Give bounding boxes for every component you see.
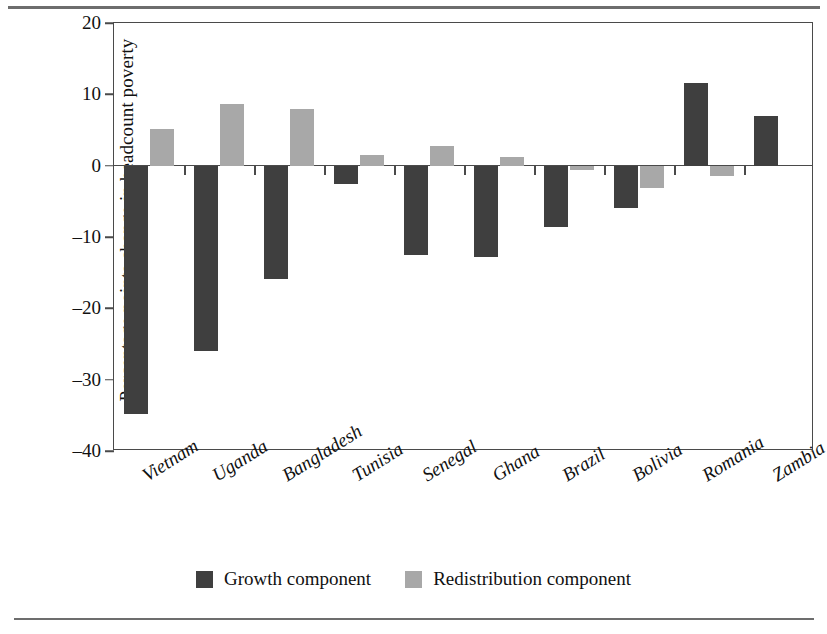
x-label-romania: Romania bbox=[698, 468, 710, 487]
x-label-vietnam: Vietnam bbox=[138, 468, 150, 487]
bar-ghana-redist bbox=[500, 157, 524, 166]
bar-vietnam-growth bbox=[124, 166, 148, 414]
bar-zambia-growth bbox=[754, 116, 778, 165]
plot-frame: Percentage points change in headcount po… bbox=[113, 22, 813, 450]
x-tick-mark bbox=[674, 166, 676, 175]
bar-senegal-growth bbox=[404, 166, 428, 255]
x-label-tunisia: Tunisia bbox=[348, 468, 360, 487]
legend-item-redistribution: Redistribution component bbox=[405, 568, 631, 590]
x-tick-mark bbox=[184, 166, 186, 175]
bar-uganda-growth bbox=[194, 166, 218, 351]
x-label-senegal: Senegal bbox=[418, 468, 430, 487]
y-tick-mark bbox=[105, 22, 114, 24]
y-tick-mark bbox=[105, 165, 114, 167]
bottom-rule bbox=[14, 618, 814, 620]
bar-senegal-redist bbox=[430, 146, 454, 165]
x-label-bangladesh: Bangladesh bbox=[278, 468, 290, 487]
chart-legend: Growth component Redistribution componen… bbox=[0, 568, 827, 590]
x-label-brazil: Brazil bbox=[558, 468, 570, 487]
x-label-ghana: Ghana bbox=[488, 468, 500, 487]
bar-tunisia-redist bbox=[360, 155, 384, 166]
bar-vietnam-redist bbox=[150, 129, 174, 165]
x-label-zambia: Zambia bbox=[768, 468, 780, 487]
x-tick-mark bbox=[324, 166, 326, 175]
x-tick-mark bbox=[394, 166, 396, 175]
bar-uganda-redist bbox=[220, 104, 244, 166]
bar-tunisia-growth bbox=[334, 166, 358, 185]
x-label-uganda: Uganda bbox=[208, 468, 220, 487]
bar-ghana-growth bbox=[474, 166, 498, 257]
legend-label-redistribution: Redistribution component bbox=[433, 568, 631, 590]
x-tick-mark bbox=[604, 166, 606, 175]
y-tick-mark bbox=[105, 308, 114, 310]
bar-bangladesh-redist bbox=[290, 109, 314, 166]
bar-brazil-redist bbox=[570, 166, 594, 170]
x-tick-mark bbox=[254, 166, 256, 175]
x-tick-mark bbox=[744, 166, 746, 175]
figure-page: Percentage points change in headcount po… bbox=[0, 0, 827, 634]
plot-area: 20100–10–20–30–40 bbox=[114, 23, 812, 449]
y-tick-mark bbox=[105, 379, 114, 381]
legend-label-growth: Growth component bbox=[224, 568, 371, 590]
legend-item-growth: Growth component bbox=[196, 568, 371, 590]
bar-bolivia-growth bbox=[614, 166, 638, 208]
bar-romania-growth bbox=[684, 83, 708, 166]
bar-romania-redist bbox=[710, 166, 734, 177]
y-tick-mark bbox=[105, 94, 114, 96]
bar-brazil-growth bbox=[544, 166, 568, 227]
square-swatch-icon bbox=[196, 571, 213, 588]
x-tick-mark bbox=[464, 166, 466, 175]
square-swatch-icon bbox=[405, 571, 422, 588]
bar-bolivia-redist bbox=[640, 166, 664, 188]
y-tick-mark bbox=[105, 450, 114, 452]
y-tick-mark bbox=[105, 236, 114, 238]
x-label-bolivia: Bolivia bbox=[628, 468, 640, 487]
bar-bangladesh-growth bbox=[264, 166, 288, 279]
x-tick-mark bbox=[534, 166, 536, 175]
